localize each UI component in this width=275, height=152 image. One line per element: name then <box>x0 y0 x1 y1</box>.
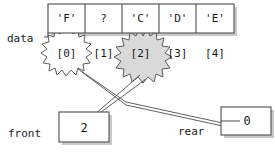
rear-pointer-value: 0 <box>232 115 262 127</box>
front-pointer-value: 2 <box>59 122 109 134</box>
diagram-canvas: 'F' ? 'C' 'D' 'E' [0] [1] [2] [3] [4] da… <box>0 0 275 152</box>
rear-pointer-label: rear <box>178 126 205 137</box>
array-index-label-0: [0] <box>48 48 85 59</box>
array-index-label-4: [4] <box>196 48 234 59</box>
array-cell-value-1: ? <box>85 13 122 24</box>
data-label-leader <box>44 33 48 37</box>
array-cell-value-3: 'D' <box>159 13 196 24</box>
array-cell-value-2: 'C' <box>122 13 159 24</box>
front-pointer-label: front <box>8 128 41 139</box>
array-index-label-3: [3] <box>159 48 196 59</box>
array-cell-value-4: 'E' <box>196 13 234 24</box>
array-index-label-2: [2] <box>122 48 159 59</box>
array-name-label: data <box>7 33 34 44</box>
array-cell-value-0: 'F' <box>48 13 85 24</box>
array-index-label-1: [1] <box>85 48 122 59</box>
